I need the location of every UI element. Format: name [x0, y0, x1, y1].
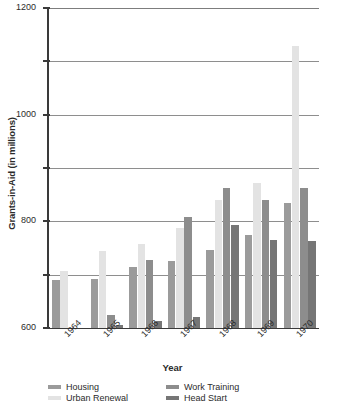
bar-head-start-1969	[270, 240, 278, 328]
legend-swatch-icon	[166, 396, 179, 400]
bar-housing-1968	[206, 250, 214, 328]
x-axis-title: Year	[0, 362, 345, 373]
bar-group-1964	[49, 8, 88, 328]
bar-work-training-1969	[262, 200, 270, 328]
legend-item-urban-renewal: Urban Renewal	[48, 392, 166, 403]
y-tick-label-800: 800	[21, 215, 36, 225]
y-tick-label-600: 600	[21, 322, 36, 332]
bar-work-training-1967	[184, 217, 192, 328]
bar-urban-renewal-1969	[253, 183, 261, 328]
bar-group-1965	[88, 8, 127, 328]
grants-in-aid-bar-chart: Grants-in-Aid (in millions) 020040060080…	[0, 0, 345, 414]
y-axis-title: Grants-in-Aid (in millions)	[6, 89, 17, 259]
bar-group-1966	[126, 8, 165, 328]
legend-label: Head Start	[184, 393, 227, 403]
bar-housing-1965	[91, 279, 99, 328]
legend-swatch-icon	[48, 385, 61, 389]
bar-work-training-1970	[300, 188, 308, 328]
bar-urban-renewal-1965	[99, 251, 107, 328]
legend-swatch-icon	[166, 385, 179, 389]
bar-housing-1969	[245, 235, 253, 328]
bar-urban-renewal-1968	[215, 200, 223, 328]
bar-work-training-1968	[223, 188, 231, 328]
bar-housing-1966	[129, 267, 137, 328]
bar-group-1970	[280, 8, 319, 328]
chart-legend: HousingWork TrainingUrban RenewalHead St…	[48, 381, 318, 403]
legend-label: Work Training	[184, 382, 239, 392]
bar-group-1968	[203, 8, 242, 328]
legend-swatch-icon	[48, 396, 61, 400]
bar-head-start-1968	[231, 225, 239, 328]
bars-layer	[49, 8, 319, 328]
bar-urban-renewal-1970	[292, 46, 300, 328]
bar-head-start-1970	[308, 241, 316, 328]
bar-urban-renewal-1966	[138, 244, 146, 328]
legend-label: Urban Renewal	[66, 393, 128, 403]
plot-area: 020040060080010001200	[47, 8, 319, 328]
y-tick-label-1200: 1200	[16, 2, 36, 12]
bar-housing-1964	[52, 280, 60, 328]
legend-label: Housing	[66, 382, 99, 392]
legend-item-head-start: Head Start	[166, 392, 318, 403]
bar-group-1969	[242, 8, 281, 328]
bar-housing-1970	[284, 203, 292, 328]
bar-group-1967	[165, 8, 204, 328]
legend-item-work-training: Work Training	[166, 381, 318, 392]
legend-item-housing: Housing	[48, 381, 166, 392]
bar-urban-renewal-1967	[176, 228, 184, 328]
bar-housing-1967	[168, 261, 176, 328]
y-tick-label-1000: 1000	[16, 109, 36, 119]
bar-urban-renewal-1964	[60, 271, 68, 328]
